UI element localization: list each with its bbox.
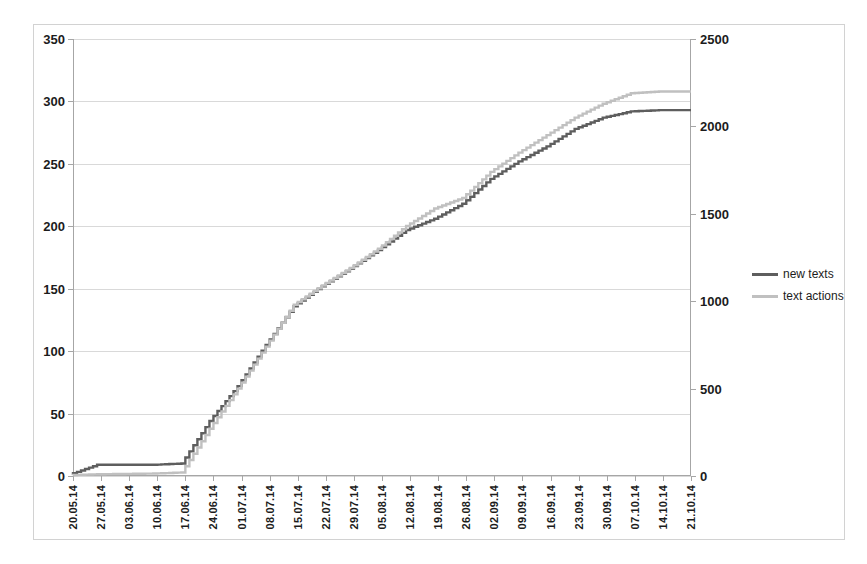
- x-axis-tick-label: 03.06.14: [123, 485, 135, 529]
- x-axis-tick-mark: [494, 476, 495, 481]
- x-axis-tick-mark: [579, 476, 580, 481]
- x-axis-tick-mark: [691, 476, 692, 481]
- x-axis-tick-mark: [157, 476, 158, 481]
- x-axis-tick-label: 01.07.14: [236, 485, 248, 529]
- y-axis-right-tick-label: 2000: [700, 119, 729, 134]
- y-axis-right-tick-label: 2500: [700, 32, 729, 47]
- y-axis-right-tick-mark: [691, 126, 696, 127]
- x-axis-tick-mark: [410, 476, 411, 481]
- x-axis-tick-label: 26.08.14: [460, 485, 472, 529]
- y-axis-right-tick-mark: [691, 301, 696, 302]
- x-axis-tick-label: 20.05.14: [67, 485, 79, 529]
- y-axis-left-tick-label: 250: [43, 156, 65, 171]
- x-axis-tick-mark: [522, 476, 523, 481]
- x-axis-tick-label: 19.08.14: [432, 485, 444, 529]
- legend-color-swatch: [752, 295, 778, 298]
- x-axis-tick-mark: [354, 476, 355, 481]
- legend-label: text actions: [783, 289, 844, 303]
- legend-item[interactable]: text actions: [752, 285, 842, 307]
- x-axis-tick-label: 10.06.14: [151, 485, 163, 529]
- y-axis-left-tick-label: 100: [43, 344, 65, 359]
- x-axis-tick-label: 23.09.14: [573, 485, 585, 529]
- plot-area: 050100150200250300350 050010001500200025…: [73, 39, 691, 476]
- series-line: [73, 91, 691, 475]
- x-axis-tick-label: 22.07.14: [320, 485, 332, 529]
- x-axis-tick-mark: [438, 476, 439, 481]
- y-axis-right-tick-mark: [691, 389, 696, 390]
- x-axis-tick-mark: [663, 476, 664, 481]
- x-axis-tick-label: 15.07.14: [292, 485, 304, 529]
- x-axis-tick-label: 21.10.14: [685, 485, 697, 529]
- y-axis-left-tick-label: 150: [43, 281, 65, 296]
- x-axis-tick-label: 16.09.14: [545, 485, 557, 529]
- x-axis-tick-label: 07.10.14: [629, 485, 641, 529]
- x-axis-tick-label: 09.09.14: [516, 485, 528, 529]
- y-axis-left-tick-label: 350: [43, 32, 65, 47]
- x-axis-tick-mark: [213, 476, 214, 481]
- y-axis-right-tick-mark: [691, 214, 696, 215]
- x-axis-tick-mark: [101, 476, 102, 481]
- x-axis-tick-label: 08.07.14: [264, 485, 276, 529]
- legend-color-swatch: [752, 273, 778, 276]
- y-axis-right-tick-label: 0: [700, 469, 707, 484]
- y-axis-right-tick-label: 1000: [700, 294, 729, 309]
- x-axis-tick-mark: [298, 476, 299, 481]
- x-axis-tick-mark: [466, 476, 467, 481]
- y-axis-right-tick-label: 500: [700, 381, 722, 396]
- x-axis-tick-mark: [607, 476, 608, 481]
- x-axis-tick-label: 02.09.14: [488, 485, 500, 529]
- x-axis-tick-label: 12.08.14: [404, 485, 416, 529]
- series-plot: [73, 39, 691, 476]
- legend-label: new texts: [783, 267, 834, 281]
- x-axis-tick-mark: [635, 476, 636, 481]
- chart-legend: new textstext actions: [752, 263, 842, 307]
- chart-frame: 050100150200250300350 050010001500200025…: [33, 24, 845, 540]
- x-axis-tick-label: 17.06.14: [179, 485, 191, 529]
- x-axis-tick-mark: [551, 476, 552, 481]
- x-axis-tick-label: 24.06.14: [207, 485, 219, 529]
- x-axis-tick-mark: [382, 476, 383, 481]
- x-axis-tick-label: 30.09.14: [601, 485, 613, 529]
- legend-item[interactable]: new texts: [752, 263, 842, 285]
- x-axis-tick-label: 29.07.14: [348, 485, 360, 529]
- y-axis-right-tick-label: 1500: [700, 206, 729, 221]
- x-axis-tick-mark: [73, 476, 74, 481]
- y-axis-right-tick-mark: [691, 39, 696, 40]
- x-axis-tick-label: 14.10.14: [657, 485, 669, 529]
- x-axis-tick-mark: [326, 476, 327, 481]
- series-line: [73, 110, 691, 475]
- x-axis-tick-mark: [185, 476, 186, 481]
- x-axis-tick-label: 27.05.14: [95, 485, 107, 529]
- x-axis-tick-mark: [242, 476, 243, 481]
- x-axis-tick-label: 05.08.14: [376, 485, 388, 529]
- y-axis-left-tick-label: 0: [58, 469, 65, 484]
- y-axis-left-tick-label: 300: [43, 94, 65, 109]
- x-axis-tick-mark: [270, 476, 271, 481]
- x-axis-tick-mark: [129, 476, 130, 481]
- y-axis-left-tick-label: 200: [43, 219, 65, 234]
- y-axis-left-tick-label: 50: [51, 406, 65, 421]
